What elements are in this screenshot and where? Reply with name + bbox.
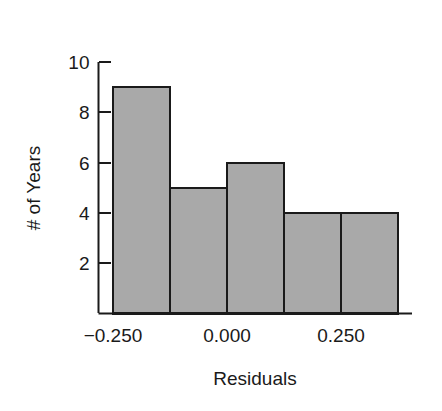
y-tick-label: 8	[79, 102, 90, 123]
y-tick-label: 10	[68, 52, 89, 73]
histogram-figure: 246810 −0.2500.0000.250 Residuals # of Y…	[0, 0, 442, 411]
histogram-bar	[341, 213, 398, 314]
x-tick-label: −0.250	[84, 325, 143, 346]
histogram-bar	[227, 163, 284, 314]
histogram-bar	[170, 188, 227, 314]
x-tick-label: 0.250	[317, 325, 365, 346]
histogram-bar	[284, 213, 341, 314]
y-tick-label: 2	[79, 253, 90, 274]
x-axis-title: Residuals	[213, 368, 296, 389]
histogram-bar	[113, 87, 170, 313]
y-tick-label: 4	[79, 203, 90, 224]
y-axis-title: # of Years	[23, 146, 44, 231]
histogram-plot: 246810 −0.2500.0000.250 Residuals # of Y…	[0, 0, 442, 411]
x-tick-label: 0.000	[203, 325, 251, 346]
y-tick-label: 6	[79, 153, 90, 174]
